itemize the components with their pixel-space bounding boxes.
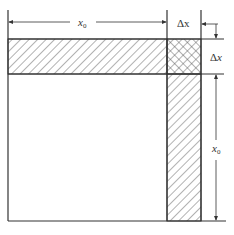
right-strip bbox=[167, 74, 201, 221]
right-delta-label: Δx bbox=[210, 51, 222, 63]
top-strip bbox=[8, 39, 167, 74]
top-width-label: x0 bbox=[77, 16, 87, 30]
right-height-label: x0 bbox=[211, 142, 221, 156]
corner-square bbox=[167, 39, 201, 74]
right-delta-arrows bbox=[202, 24, 218, 38]
diagram-canvas: x0 Δx Δx x0 bbox=[0, 0, 234, 235]
top-delta-label: Δx bbox=[177, 17, 190, 29]
